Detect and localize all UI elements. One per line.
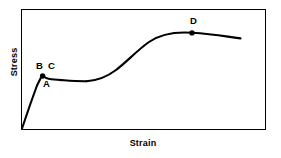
point-label-d: D — [190, 16, 197, 26]
stress-strain-figure: Stress Strain A B C D — [0, 0, 281, 158]
point-label-b: B — [36, 61, 43, 71]
point-label-a: A — [43, 79, 50, 89]
plot-frame — [21, 9, 266, 130]
y-axis-label: Stress — [9, 40, 19, 84]
point-label-c: C — [48, 61, 55, 71]
x-axis-label: Strain — [108, 138, 178, 148]
